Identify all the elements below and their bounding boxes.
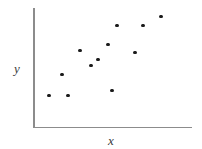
data-point [96,58,99,61]
data-point [115,24,118,27]
data-point [60,73,63,76]
data-point [89,64,92,67]
y-axis-label: y [14,62,20,75]
y-axis-line [33,8,35,128]
data-point [78,49,81,52]
data-point [141,24,144,27]
data-point [133,51,136,54]
data-point [66,94,69,97]
scatter-plot-figure: y x [0,0,202,149]
plot-area [33,8,192,128]
x-axis-line [33,127,192,129]
data-point [159,15,162,18]
data-point [47,94,50,97]
x-axis-label: x [108,134,114,147]
data-point [110,89,113,92]
data-point [106,43,109,46]
